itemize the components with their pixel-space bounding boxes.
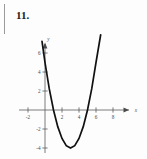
x-tick-label-6: 6	[95, 114, 98, 120]
plot-svg: -2 2 4 6 8 6 4 2 -2 -4 x y	[0, 0, 147, 159]
y-tick-label-4: 4	[38, 69, 41, 75]
x-tick-label--2: -2	[26, 114, 31, 120]
y-tick-label-6: 6	[38, 50, 41, 56]
x-tick-label-8: 8	[112, 114, 115, 120]
x-tick-label-4: 4	[78, 114, 81, 120]
x-axis-arrowhead	[124, 108, 130, 113]
y-tick-label-2: 2	[38, 88, 41, 94]
y-tick-label--2: -2	[36, 126, 41, 132]
parabola-curve	[42, 35, 101, 148]
x-tick-label-2: 2	[61, 114, 64, 120]
y-tick-label--4: -4	[36, 145, 41, 151]
parabola-plot: -2 2 4 6 8 6 4 2 -2 -4 x y	[0, 0, 147, 159]
x-axis-label: x	[134, 107, 138, 113]
figure-container: 11. -2 2 4 6 8	[0, 0, 147, 159]
y-axis-label: y	[46, 36, 50, 42]
